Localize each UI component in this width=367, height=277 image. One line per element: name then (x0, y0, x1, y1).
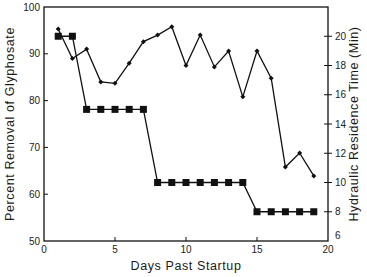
y-left-tick-label: 70 (29, 142, 41, 153)
square-marker (211, 179, 218, 186)
y-left-tick-label: 50 (29, 236, 41, 247)
x-axis-title: Days Past Startup (131, 259, 242, 273)
square-marker (183, 179, 190, 186)
square-marker (268, 208, 275, 215)
square-marker (197, 179, 204, 186)
diamond-marker (269, 76, 274, 81)
square-marker (296, 208, 303, 215)
square-marker (55, 33, 62, 40)
x-tick-label: 15 (251, 244, 263, 255)
y-left-tick-label: 100 (23, 2, 40, 13)
square-marker (97, 106, 104, 113)
y-right-tick-label: 14 (335, 119, 347, 130)
y-right-tick-label: 20 (335, 31, 347, 42)
dual-axis-line-chart: 05101520 5060708090100 68101214161820 Da… (0, 0, 367, 277)
y-left-tick-label: 60 (29, 189, 41, 200)
square-marker (69, 33, 76, 40)
square-marker (83, 106, 90, 113)
y-right-tick-label: 6 (335, 230, 341, 241)
x-tick-label: 10 (180, 244, 192, 255)
x-tick-label: 0 (41, 244, 47, 255)
square-marker (254, 208, 261, 215)
y-left-tick-label: 80 (29, 95, 41, 106)
y-right-tick-label: 10 (335, 177, 347, 188)
diamond-marker (255, 48, 260, 53)
diamond-marker (98, 79, 103, 84)
y-axis-right-title: Hydraulic Residence Time (Min) (347, 26, 361, 221)
y-right-tick-label: 18 (335, 60, 347, 71)
diamond-marker (198, 33, 203, 38)
square-marker (239, 179, 246, 186)
diamond-marker (56, 26, 61, 31)
y-left-tick-label: 90 (29, 48, 41, 59)
x-tick-label: 5 (112, 244, 118, 255)
x-tick-label: 20 (322, 244, 334, 255)
y-right-tick-label: 16 (335, 89, 347, 100)
y-right-tick-label: 8 (335, 206, 341, 217)
square-marker (168, 179, 175, 186)
square-marker (154, 179, 161, 186)
x-axis-ticks: 05101520 (41, 237, 334, 255)
diamond-series-line (58, 27, 314, 176)
square-marker (140, 106, 147, 113)
square-marker (225, 179, 232, 186)
square-marker (310, 208, 317, 215)
square-marker (126, 106, 133, 113)
series-layer (55, 24, 318, 215)
y-right-tick-label: 12 (335, 148, 347, 159)
square-marker (282, 208, 289, 215)
diamond-marker (184, 63, 189, 68)
square-marker (112, 106, 119, 113)
diamond-marker (240, 94, 245, 99)
y-axis-left-title: Percent Removal of Glyphosate (3, 27, 17, 221)
plot-frame (44, 7, 328, 241)
